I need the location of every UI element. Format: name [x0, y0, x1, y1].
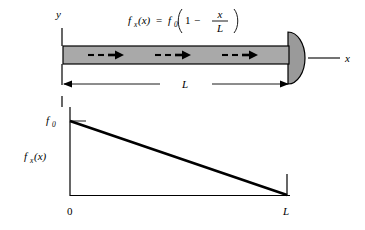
plot-load-line — [70, 121, 287, 195]
equation-equals: = — [156, 14, 162, 26]
plot-fx-name: f — [24, 150, 29, 162]
top-x-axis-label: x — [344, 52, 350, 64]
load-equation: f x (x) = f 0 1 − x L — [128, 8, 238, 34]
dimension-line-L — [63, 81, 289, 88]
equation-paren-open — [178, 9, 182, 33]
equation-fraction-numerator: x — [217, 8, 223, 20]
figure-canvas: y x L f x (x) = f 0 1 − x L — [0, 0, 365, 230]
plot-x-tick-label-0: 0 — [67, 205, 73, 217]
equation-minus: − — [194, 14, 200, 26]
plot-fx-argument: (x) — [34, 150, 47, 163]
plot-y-axis-label: f x (x) — [24, 150, 47, 165]
equation-one: 1 — [185, 14, 191, 26]
equation-argument: (x) — [138, 14, 151, 27]
plot-f0-name: f — [46, 114, 51, 126]
plot-x-tick-label-L: L — [282, 205, 289, 217]
top-y-axis-label: y — [55, 8, 61, 20]
equation-f0-subscript: 0 — [174, 20, 178, 29]
plot-y-top-label: f 0 — [46, 114, 56, 129]
equation-paren-close — [234, 9, 238, 33]
equation-fraction-denominator: L — [216, 22, 223, 34]
equation-f0-name: f — [168, 14, 173, 26]
figure-svg: y x L f x (x) = f 0 1 − x L — [0, 0, 365, 230]
plot-f0-subscript: 0 — [52, 120, 56, 129]
equation-f-name: f — [128, 14, 133, 26]
end-cap-shape — [288, 32, 305, 84]
dimension-label-L: L — [181, 78, 188, 90]
